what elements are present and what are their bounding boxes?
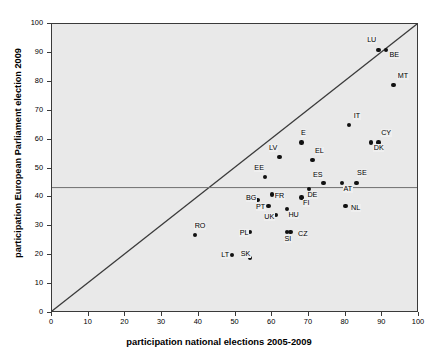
data-point (266, 204, 270, 208)
y-tick-label: 40 (21, 192, 43, 200)
x-tick-mark (235, 312, 236, 316)
data-point-label: LU (367, 36, 377, 44)
data-point-label: AT (343, 185, 353, 193)
data-point-label: E (301, 129, 307, 137)
plot-area: LUBEMTITCYDKELVELSEESATEEDEBGFRPTFINLHUU… (51, 23, 418, 312)
data-point-label: SK (240, 250, 251, 258)
x-tick-mark (161, 312, 162, 316)
x-tick-mark (381, 312, 382, 316)
x-tick-label: 20 (114, 318, 134, 326)
data-point (263, 175, 267, 179)
y-tick-label: 0 (21, 308, 43, 316)
data-point-label: CZ (298, 230, 309, 238)
x-tick-mark (51, 312, 52, 316)
data-point-label: SE (357, 169, 368, 177)
x-tick-label: 80 (335, 318, 355, 326)
data-point-label: CY (381, 129, 392, 137)
x-tick-mark (345, 312, 346, 316)
data-point-label: NL (351, 204, 361, 212)
x-tick-label: 30 (151, 318, 171, 326)
y-tick-label: 20 (21, 250, 43, 258)
data-point (343, 204, 347, 208)
x-tick-mark (271, 312, 272, 316)
data-point-label: SI (284, 235, 292, 243)
data-point-label: DK (373, 144, 384, 152)
x-tick-mark (124, 312, 125, 316)
y-tick-label: 90 (21, 48, 43, 56)
data-points-layer: LUBEMTITCYDKELVELSEESATEEDEBGFRPTFINLHUU… (52, 24, 417, 311)
data-point-label: EL (315, 147, 325, 155)
y-tick-label: 80 (21, 77, 43, 85)
data-point-label: HU (288, 211, 299, 219)
x-tick-label: 40 (188, 318, 208, 326)
data-point-label: UK (264, 213, 275, 221)
x-tick-label: 0 (41, 318, 61, 326)
data-point-label: BE (389, 51, 400, 59)
x-tick-label: 90 (371, 318, 391, 326)
data-point (193, 233, 197, 237)
y-tick-label: 50 (21, 164, 43, 172)
x-tick-mark (88, 312, 89, 316)
data-point-label: FR (274, 192, 285, 200)
x-tick-label: 60 (261, 318, 281, 326)
x-tick-label: 100 (408, 318, 428, 326)
data-point-label: RO (194, 222, 206, 230)
data-point (391, 83, 395, 87)
data-point (230, 253, 234, 257)
data-point-label: ES (313, 171, 324, 179)
data-point-label: PL (239, 229, 249, 237)
y-tick-label: 100 (21, 19, 43, 27)
data-point (384, 48, 388, 52)
data-point-label: PT (256, 203, 266, 211)
data-point (277, 155, 281, 159)
data-point-label: EE (254, 164, 265, 172)
x-tick-mark (308, 312, 309, 316)
data-point (310, 158, 314, 162)
data-point-label: FI (303, 199, 310, 207)
data-point (376, 48, 380, 52)
data-point-label: LT (221, 251, 230, 259)
y-tick-label: 60 (21, 135, 43, 143)
data-point (354, 181, 358, 185)
data-point (299, 140, 303, 144)
data-point-label: IT (353, 112, 360, 120)
x-axis-title: participation national elections 2005-20… (0, 336, 438, 347)
data-point-label: MT (397, 72, 408, 80)
y-tick-label: 70 (21, 106, 43, 114)
x-tick-label: 50 (225, 318, 245, 326)
data-point (321, 181, 325, 185)
x-tick-mark (198, 312, 199, 316)
data-point-label: LV (269, 144, 278, 152)
y-tick-label: 10 (21, 279, 43, 287)
x-tick-label: 10 (78, 318, 98, 326)
data-point (347, 123, 351, 127)
chart-figure: participation European Parliament electi… (0, 0, 438, 362)
data-point (288, 230, 292, 234)
x-tick-label: 70 (298, 318, 318, 326)
y-tick-label: 30 (21, 221, 43, 229)
x-tick-mark (418, 312, 419, 316)
